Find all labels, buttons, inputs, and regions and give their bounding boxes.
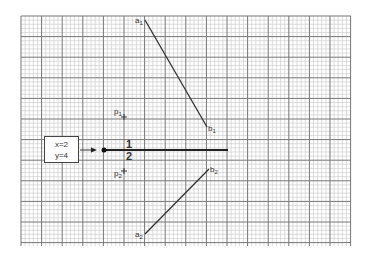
info-box: x=2 y=4 bbox=[44, 136, 79, 163]
grid-diagram: a1 b1 a2 b2 p1 p2 1 2 bbox=[0, 0, 368, 260]
label-a1: a1 bbox=[135, 16, 143, 26]
label-p1: p1 bbox=[114, 107, 122, 117]
info-x-value: x=2 bbox=[45, 139, 78, 150]
info-y-value: y=4 bbox=[45, 150, 78, 161]
label-a2: a2 bbox=[135, 230, 143, 240]
line-origin-dot[interactable] bbox=[102, 148, 107, 153]
label-b1: b1 bbox=[208, 124, 216, 134]
region-label-2: 2 bbox=[126, 150, 132, 162]
point-p2-cross-icon bbox=[121, 168, 127, 174]
label-b2: b2 bbox=[210, 165, 218, 175]
region-label-1: 1 bbox=[126, 138, 132, 150]
